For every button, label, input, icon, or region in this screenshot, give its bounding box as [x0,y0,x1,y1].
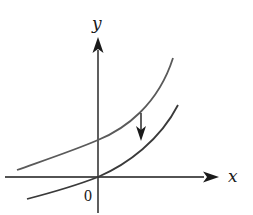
shift-down-arrow [136,113,146,141]
graph-canvas: x y 0 [0,0,253,215]
x-axis-arrow-icon [203,172,219,183]
y-axis-label: y [91,13,102,33]
shifted-curve [27,105,178,199]
origin-label: 0 [84,187,92,204]
x-axis [5,172,219,183]
y-axis [93,37,104,213]
x-axis-label: x [228,166,238,186]
original-curve [17,58,173,170]
